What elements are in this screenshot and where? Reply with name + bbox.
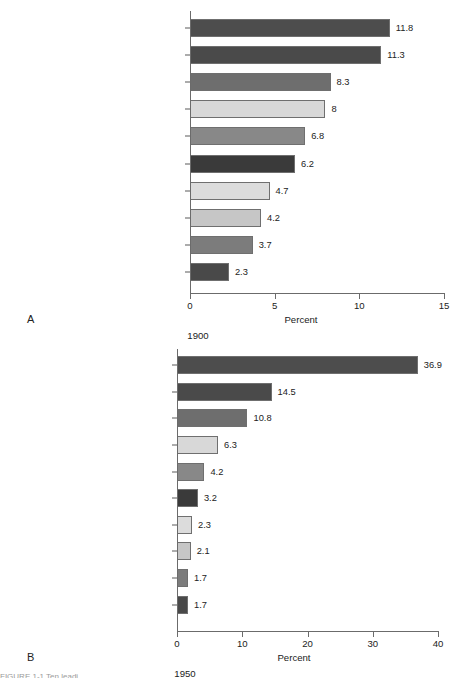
bar <box>177 516 192 534</box>
x-axis-tick-label: 10 <box>237 638 248 649</box>
bar-value-label: 4.2 <box>210 467 223 477</box>
bar <box>177 383 272 401</box>
bar <box>190 73 331 91</box>
x-axis-tick-label: 20 <box>302 638 313 649</box>
x-axis-tick-label: 15 <box>439 300 450 311</box>
bar <box>190 19 390 37</box>
bar <box>190 127 305 145</box>
bar <box>190 155 295 173</box>
bar-value-label: 1.7 <box>194 600 207 610</box>
bar <box>177 489 198 507</box>
bar <box>177 542 191 560</box>
bar <box>177 356 418 374</box>
bar-value-label: 2.3 <box>198 520 211 530</box>
x-axis-tick <box>438 632 439 637</box>
bar-value-label: 2.3 <box>235 267 248 277</box>
chart-panel-a: Pneumonia and influenza11.8Tuberculosis1… <box>0 0 466 340</box>
bar <box>190 263 229 281</box>
bar-value-label: 1.7 <box>194 573 207 583</box>
bar <box>190 46 381 64</box>
bar-value-label: 4.2 <box>267 213 280 223</box>
bar-value-label: 3.2 <box>204 493 217 503</box>
x-axis-tick <box>444 294 445 299</box>
bar-value-label: 10.8 <box>253 413 271 423</box>
x-axis-tick <box>275 294 276 299</box>
bar-value-label: 6.3 <box>224 440 237 450</box>
x-axis-tick <box>359 294 360 299</box>
x-axis-tick-label: 0 <box>174 638 179 649</box>
bar-value-label: 6.8 <box>311 131 324 141</box>
x-axis-tick-label: 0 <box>187 300 192 311</box>
bar <box>190 182 270 200</box>
x-axis-tick <box>177 632 178 637</box>
bar <box>190 236 253 254</box>
x-axis-tick-label: 30 <box>367 638 378 649</box>
bar-value-label: 14.5 <box>278 387 296 397</box>
bar-value-label: 8 <box>331 104 336 114</box>
x-axis-title: Percent <box>284 314 317 325</box>
bar-value-label: 11.3 <box>387 50 404 60</box>
x-axis-tick <box>190 294 191 299</box>
bar <box>177 569 188 587</box>
panel-letter: A <box>27 313 34 325</box>
bar-value-label: 3.7 <box>259 240 272 250</box>
figure-caption-sliver: FIGURE 1-1 Ten leadi <box>0 672 200 678</box>
x-axis-title: Percent <box>277 652 310 663</box>
bar-value-label: 11.8 <box>396 23 413 33</box>
chart-panel-b: Disease of the heart36.9Malignant neopla… <box>0 340 466 678</box>
bar <box>177 409 247 427</box>
bar-value-label: 36.9 <box>424 360 442 370</box>
bar <box>177 596 188 614</box>
bar-value-label: 6.2 <box>301 159 314 169</box>
x-axis-tick-label: 5 <box>272 300 277 311</box>
x-axis-tick-label: 10 <box>354 300 365 311</box>
bar <box>190 209 261 227</box>
x-axis-tick <box>308 632 309 637</box>
bar-value-label: 8.3 <box>337 77 350 87</box>
y-axis-line <box>190 11 191 293</box>
x-axis-tick <box>242 632 243 637</box>
y-axis-line <box>177 349 178 631</box>
bar <box>177 463 204 481</box>
panel-letter: B <box>27 651 34 663</box>
bar <box>190 100 325 118</box>
bar-value-label: 4.7 <box>276 186 289 196</box>
x-axis-tick-label: 40 <box>433 638 444 649</box>
x-axis-tick <box>373 632 374 637</box>
bar <box>177 436 218 454</box>
bar-value-label: 2.1 <box>197 546 210 556</box>
x-axis-line <box>190 293 445 294</box>
